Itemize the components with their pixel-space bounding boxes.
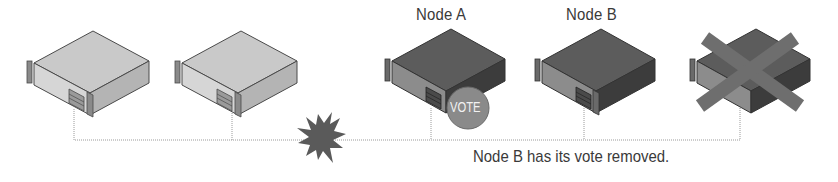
cluster-quorum-diagram: Node A Node B VOTE Node B has its vote r… (0, 0, 838, 182)
caption: Node B has its vote removed. (473, 147, 669, 167)
vote-badge-label: VOTE (450, 99, 481, 115)
explosion-icon (297, 112, 346, 163)
node-b-label: Node B (566, 5, 617, 25)
diagram-canvas (0, 0, 838, 182)
server-icon (27, 31, 149, 117)
server-icon (175, 31, 297, 117)
network-connections (74, 104, 740, 140)
node-b-server-icon (535, 29, 655, 115)
node-a-label: Node A (416, 5, 466, 25)
